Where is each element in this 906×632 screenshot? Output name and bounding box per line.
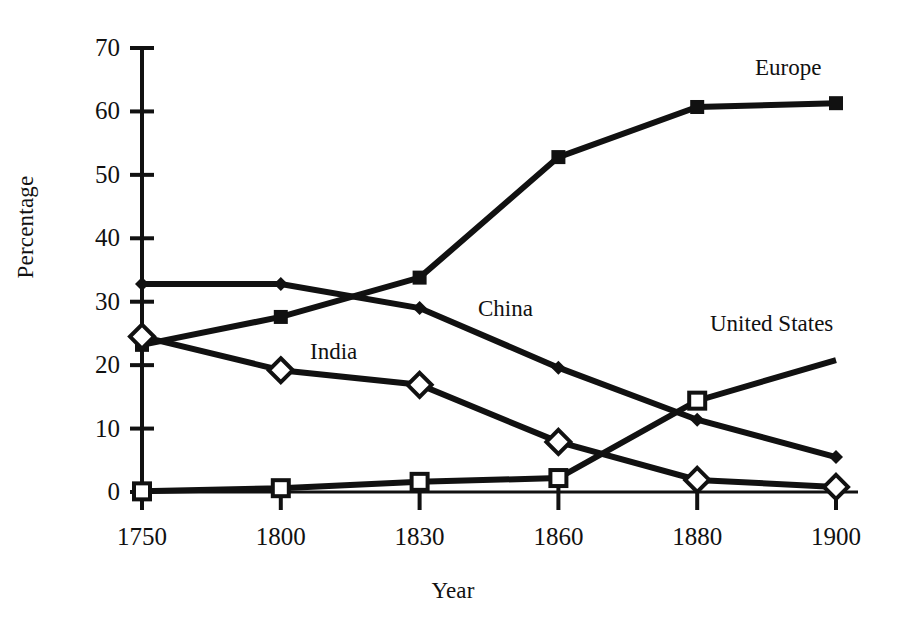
marker-open-diamond bbox=[685, 468, 709, 492]
plot-area bbox=[0, 0, 906, 632]
marker-open-square bbox=[412, 474, 428, 490]
marker-open-square bbox=[550, 470, 566, 486]
marker-open-diamond bbox=[546, 430, 570, 454]
marker-open-diamond bbox=[408, 373, 432, 397]
marker-open-square bbox=[689, 393, 705, 409]
series-paths bbox=[130, 96, 848, 499]
series-line-china bbox=[142, 284, 836, 457]
marker-open-square bbox=[134, 483, 150, 499]
marker-small-filled-diamond bbox=[829, 450, 843, 464]
marker-filled-square bbox=[413, 271, 427, 285]
series-line-united-states bbox=[142, 360, 836, 491]
marker-open-square bbox=[273, 480, 289, 496]
series-line-europe bbox=[142, 103, 836, 345]
marker-small-filled-diamond bbox=[274, 277, 288, 291]
series-line-india bbox=[142, 337, 836, 487]
marker-filled-square bbox=[690, 100, 704, 114]
marker-filled-square bbox=[274, 310, 288, 324]
marker-open-diamond bbox=[824, 475, 848, 499]
marker-small-filled-diamond bbox=[135, 277, 149, 291]
axis-lines bbox=[130, 48, 858, 510]
chart-figure: Percentage Year 010203040506070 17501800… bbox=[0, 0, 906, 632]
marker-open-diamond bbox=[269, 358, 293, 382]
marker-filled-square bbox=[829, 96, 843, 110]
marker-filled-square bbox=[551, 150, 565, 164]
